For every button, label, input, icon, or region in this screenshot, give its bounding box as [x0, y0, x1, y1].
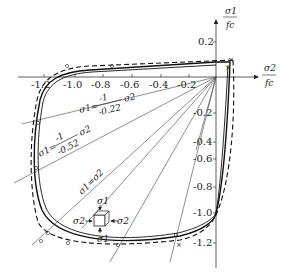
ray-label-052: σ1= -1 -0.52 σ2 [34, 118, 96, 165]
x-tick-label: -1.0 [63, 79, 82, 90]
svg-text:-1: -1 [98, 92, 109, 104]
svg-text:σ1: σ1 [97, 234, 109, 244]
svg-text:σ2: σ2 [73, 216, 85, 226]
x-tick-label: -0.8 [91, 79, 110, 90]
svg-text:σ2: σ2 [264, 63, 276, 73]
svg-text:fc: fc [225, 20, 234, 30]
svg-text:σ1=: σ1= [36, 141, 58, 159]
biaxial-strength-diagram: -1.2 -1.0 -0.8 -0.6 -0.4 -0.2 0.2 -0.2 -… [0, 0, 283, 273]
svg-text:-0.22: -0.22 [97, 102, 122, 117]
svg-text:×: × [228, 56, 234, 64]
x-tick-label: -0.6 [120, 79, 139, 90]
y-tick-label: -0.4 [193, 136, 212, 147]
x-tick-label: -0.4 [149, 79, 168, 90]
stress-element-inset: σ1 σ1 σ2 σ2 [73, 196, 129, 244]
y-tick-label: -1.0 [193, 207, 212, 218]
y-axis-label: σ1 fc [223, 6, 237, 30]
y-tick-label: -0.8 [193, 181, 212, 192]
svg-text:σ1: σ1 [97, 196, 109, 206]
x-axis-label: σ2 fc [262, 63, 276, 88]
x-tick-label: -0.2 [177, 79, 196, 90]
svg-text:σ1: σ1 [225, 6, 237, 16]
svg-text:×: × [225, 64, 231, 72]
svg-text:σ2: σ2 [77, 123, 92, 137]
svg-text:×: × [176, 241, 182, 249]
y-tick-label: -1.2 [193, 237, 212, 248]
svg-text:σ1=: σ1= [78, 101, 99, 115]
svg-text:σ2: σ2 [123, 91, 137, 104]
y-tick-label: 0.2 [198, 36, 214, 47]
svg-text:σ2: σ2 [117, 216, 129, 226]
svg-text:fc: fc [264, 78, 273, 88]
